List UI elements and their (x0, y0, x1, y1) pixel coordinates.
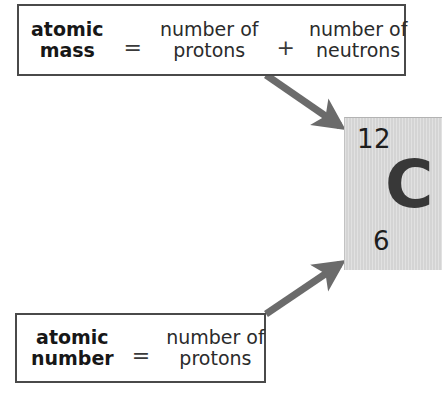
equals-operator-2: = (132, 343, 150, 368)
atomic-mass-equation-box: atomic mass = number of protons + number… (17, 4, 406, 76)
element-tile-carbon: 12 C 6 (344, 117, 442, 270)
equals-operator: = (124, 35, 142, 60)
atomic-notation-diagram: atomic mass = number of protons + number… (0, 0, 447, 400)
neutrons-term: number of neutrons (309, 19, 408, 62)
plus-operator: + (276, 35, 294, 60)
atomic-number-label-line2: number (31, 348, 114, 369)
protons-term-line2: protons (173, 40, 245, 61)
protons-term-2-line2: protons (179, 348, 251, 369)
neutrons-term-line2: neutrons (316, 40, 400, 61)
arrow-number-to-tile (266, 264, 340, 314)
arrow-mass-to-tile (266, 75, 340, 126)
protons-term-2-line1: number of (166, 327, 265, 348)
protons-term: number of protons (160, 19, 259, 62)
atomic-number-label-line1: atomic (36, 327, 109, 348)
atomic-mass-label-line1: atomic (31, 19, 104, 40)
neutrons-term-line1: number of (309, 19, 408, 40)
atomic-mass-label-line2: mass (40, 40, 95, 61)
atomic-number-value: 6 (373, 226, 390, 256)
atomic-number-label: atomic number (31, 327, 114, 370)
protons-term-line1: number of (160, 19, 259, 40)
protons-term-2: number of protons (166, 327, 265, 370)
element-symbol: C (385, 152, 433, 218)
atomic-mass-label: atomic mass (31, 19, 104, 62)
atomic-number-equation-box: atomic number = number of protons (15, 313, 266, 383)
